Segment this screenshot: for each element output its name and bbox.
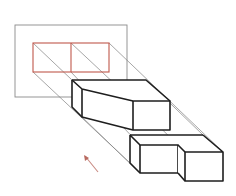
projection-direction-arrow-icon xyxy=(84,155,98,172)
diagram-canvas: Oblique parallel projection of stepped b… xyxy=(0,0,236,196)
